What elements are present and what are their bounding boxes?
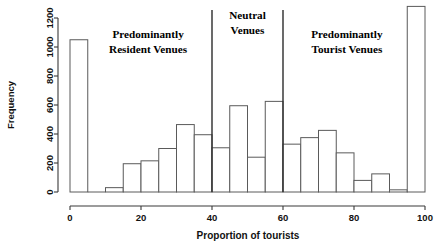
y-tick-label: 800 <box>44 68 55 84</box>
region-label-line2: Tourist Venues <box>312 43 383 55</box>
y-tick-label: 600 <box>44 97 55 113</box>
y-tick-label: 400 <box>44 126 55 142</box>
y-tick-label: 1000 <box>44 36 55 57</box>
histogram-bar <box>194 135 212 192</box>
x-tick-label: 40 <box>207 212 218 223</box>
histogram-bar <box>248 157 266 192</box>
histogram-bar <box>123 164 141 192</box>
histogram-bar <box>372 174 390 192</box>
histogram-bar <box>407 6 425 192</box>
x-axis-title: Proportion of tourists <box>197 230 300 241</box>
x-tick-label: 60 <box>278 212 289 223</box>
region-label-line1: Predominantly <box>311 28 383 40</box>
histogram-bar <box>283 144 301 192</box>
histogram-bar <box>141 161 159 192</box>
y-tick-label: 1200 <box>44 7 55 28</box>
region-label-line2: Venues <box>231 24 265 36</box>
histogram-bar <box>230 106 248 192</box>
y-tick-label: 200 <box>44 155 55 171</box>
histogram-bar <box>106 188 124 192</box>
histogram-bar <box>265 101 283 192</box>
histogram-bar <box>319 130 337 192</box>
histogram-bar <box>70 40 88 192</box>
y-axis: 020040060080010001200 <box>44 7 58 194</box>
region-label-line1: Neutral <box>229 9 266 21</box>
region-label-line1: Predominantly <box>112 28 184 40</box>
region-annotations: PredominantlyResident VenuesNeutralVenue… <box>109 9 383 55</box>
x-tick-label: 20 <box>136 212 147 223</box>
histogram-bar <box>390 190 408 192</box>
x-axis: 020406080100 <box>67 206 433 223</box>
histogram-bar <box>212 148 230 192</box>
region-label-line2: Resident Venues <box>109 43 188 55</box>
histogram-bar <box>336 153 354 192</box>
x-tick-label: 100 <box>417 212 433 223</box>
x-tick-label: 0 <box>67 212 72 223</box>
histogram-bar <box>354 180 372 192</box>
y-axis-title: Frequency <box>5 80 16 129</box>
histogram-bar <box>159 149 177 193</box>
histogram-bar <box>177 125 195 192</box>
histogram-chart: 020406080100 020040060080010001200 Predo… <box>0 0 445 247</box>
y-tick-label: 0 <box>44 189 55 194</box>
histogram-bar <box>301 138 319 192</box>
chart-canvas: 020406080100 020040060080010001200 Predo… <box>0 0 445 247</box>
x-tick-label: 80 <box>349 212 360 223</box>
